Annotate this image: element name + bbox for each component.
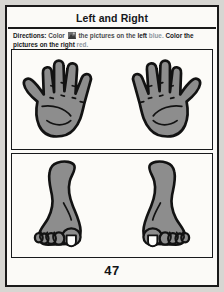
- word-blue: blue.: [149, 32, 164, 39]
- hands-section: [11, 49, 213, 150]
- word-left: left: [137, 32, 147, 39]
- worksheet-page: Left and Right Directions: Color the pic…: [0, 0, 224, 292]
- feet-section: [11, 153, 213, 258]
- title-divider: [8, 27, 216, 29]
- left-hand-cell[interactable]: [12, 54, 112, 146]
- word-right: right: [61, 41, 75, 48]
- page-sheet: Left and Right Directions: Color the pic…: [5, 5, 219, 287]
- feet-row: [12, 154, 212, 257]
- crayon-icon: [68, 32, 76, 39]
- word-red: red.: [77, 41, 89, 48]
- page-title: Left and Right: [7, 12, 217, 24]
- right-hand-cell[interactable]: [112, 54, 212, 146]
- left-hand[interactable]: [18, 54, 106, 146]
- directions-text-1: Color: [48, 32, 65, 39]
- right-hand[interactable]: [118, 54, 206, 146]
- directions-text: Directions: Color the pictures on the le…: [13, 31, 211, 49]
- directions-label: Directions:: [13, 32, 46, 39]
- right-foot-cell[interactable]: [112, 158, 212, 254]
- directions-text-2: the pictures on the: [78, 32, 135, 39]
- right-foot[interactable]: [131, 158, 193, 254]
- page-number: 47: [7, 263, 217, 278]
- hands-row: [12, 50, 212, 149]
- left-foot[interactable]: [31, 158, 93, 254]
- left-foot-cell[interactable]: [12, 158, 112, 254]
